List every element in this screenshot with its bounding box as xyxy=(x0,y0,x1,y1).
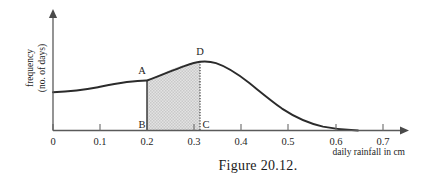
y-axis-title-line1: frequency xyxy=(25,49,35,87)
point-label-b: B xyxy=(138,119,145,130)
x-axis-title: daily rainfall in cm xyxy=(332,147,405,157)
x-tick-label-0-6: 0.6 xyxy=(329,136,342,147)
rainfall-frequency-chart: 0 0.1 0.2 0.3 0.4 0.5 0.6 0.7 daily rain… xyxy=(0,0,423,178)
x-tick-label-0-1: 0.1 xyxy=(93,136,106,147)
y-axis-arrow-icon xyxy=(49,9,57,18)
x-tick-label-0: 0 xyxy=(50,136,55,147)
point-label-c: C xyxy=(202,119,209,130)
x-axis: 0 0.1 0.2 0.3 0.4 0.5 0.6 0.7 daily rain… xyxy=(50,124,409,157)
figure-container: 0 0.1 0.2 0.3 0.4 0.5 0.6 0.7 daily rain… xyxy=(0,0,423,178)
x-tick-label-0-3: 0.3 xyxy=(187,136,200,147)
x-tick-label-0-2: 0.2 xyxy=(140,136,153,147)
y-axis: frequency (no. of days) xyxy=(25,9,57,131)
x-tick-label-0-7: 0.7 xyxy=(376,136,389,147)
x-tick-label-0-5: 0.5 xyxy=(281,136,294,147)
y-axis-title-line2: (no. of days) xyxy=(37,44,48,92)
point-label-d: D xyxy=(196,46,204,57)
x-axis-arrow-icon xyxy=(400,126,409,134)
x-tick-label-0-4: 0.4 xyxy=(234,136,248,147)
point-label-a: A xyxy=(138,65,146,76)
shaded-region-fill xyxy=(146,58,201,131)
shaded-region-abcd xyxy=(146,58,201,131)
figure-caption: Figure 20.12. xyxy=(219,158,298,173)
